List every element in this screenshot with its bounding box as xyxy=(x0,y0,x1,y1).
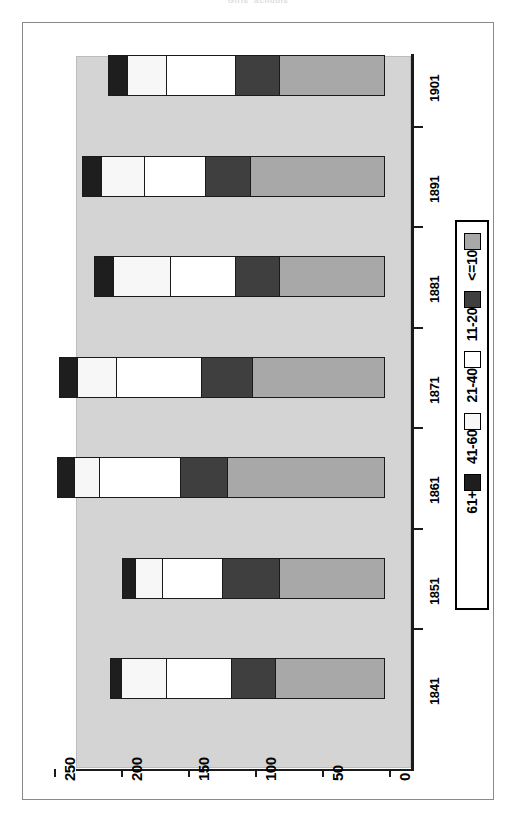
bar-1901 xyxy=(108,55,389,96)
legend: <=1011-2021-4041-6061+ xyxy=(455,220,495,610)
value-tick-label: 150 xyxy=(195,737,212,781)
category-label-1901: 1901 xyxy=(427,50,442,102)
legend-item-1[interactable]: 11-20 xyxy=(464,287,481,342)
category-label-1861: 1861 xyxy=(427,452,442,504)
legend-label: 11-20 xyxy=(464,308,480,342)
value-tick xyxy=(188,769,190,777)
value-tick-label: 200 xyxy=(128,737,145,781)
category-label-1851: 1851 xyxy=(427,553,442,605)
chart-frame: 250200150100500 184118511861187118811891… xyxy=(22,22,494,800)
bar-segment-11-20-1861 xyxy=(180,457,228,498)
bar-segment-11-20-1871 xyxy=(201,357,253,398)
legend-swatch-icon xyxy=(464,351,481,368)
bar-segment-11-20-1851 xyxy=(222,558,280,599)
legend-box: <=1011-2021-4041-6061+ xyxy=(455,220,489,610)
bar-1861 xyxy=(57,457,389,498)
bar-segment-41-60-1901 xyxy=(127,55,167,96)
legend-item-3[interactable]: 41-60 xyxy=(464,409,481,464)
bar-segment-61-1881 xyxy=(94,256,114,297)
bar-segment-10-1881 xyxy=(279,256,385,297)
page-title: Girls' Schools xyxy=(0,0,516,6)
value-tick-label: 50 xyxy=(329,737,346,781)
category-tick xyxy=(414,427,423,429)
bar-1881 xyxy=(94,256,389,297)
bar-1891 xyxy=(82,156,389,197)
bar-segment-41-60-1871 xyxy=(77,357,117,398)
legend-label: 21-40 xyxy=(464,368,480,402)
bar-segment-41-60-1891 xyxy=(101,156,145,197)
category-label-1881: 1881 xyxy=(427,251,442,303)
bar-segment-61-1901 xyxy=(108,55,128,96)
value-tick xyxy=(54,769,56,777)
value-tick-label: 100 xyxy=(262,737,279,781)
bar-segment-11-20-1841 xyxy=(231,658,277,699)
bar-segment-61-1851 xyxy=(122,558,135,599)
value-axis-line xyxy=(76,769,414,771)
legend-item-2[interactable]: 21-40 xyxy=(464,347,481,402)
legend-label: <=10 xyxy=(464,250,480,281)
value-tick xyxy=(322,769,324,777)
bar-segment-61-1891 xyxy=(82,156,102,197)
bar-1871 xyxy=(59,357,389,398)
bar-segment-41-60-1881 xyxy=(113,256,171,297)
bar-segment-10-1871 xyxy=(252,357,385,398)
legend-swatch-icon xyxy=(464,474,481,491)
value-tick xyxy=(121,769,123,777)
bar-segment-10-1901 xyxy=(279,55,385,96)
category-tick xyxy=(414,528,423,530)
bar-segment-61-1871 xyxy=(59,357,78,398)
bar-segment-61-1861 xyxy=(57,457,76,498)
legend-swatch-icon xyxy=(464,233,481,250)
value-tick xyxy=(255,769,257,777)
bar-segment-21-40-1871 xyxy=(116,357,202,398)
legend-item-0[interactable]: <=10 xyxy=(464,229,481,281)
bar-segment-41-60-1851 xyxy=(135,558,163,599)
bar-segment-21-40-1861 xyxy=(99,457,181,498)
bar-segment-21-40-1881 xyxy=(170,256,236,297)
category-tick xyxy=(414,327,423,329)
bar-segment-10-1851 xyxy=(279,558,385,599)
category-label-1871: 1871 xyxy=(427,352,442,404)
bar-1851 xyxy=(122,558,389,599)
bar-segment-10-1891 xyxy=(250,156,385,197)
bar-segment-21-40-1841 xyxy=(166,658,232,699)
legend-label: 61+ xyxy=(464,491,480,514)
bar-segment-21-40-1901 xyxy=(166,55,236,96)
value-tick-label: 0 xyxy=(396,737,413,781)
category-tick xyxy=(414,226,423,228)
legend-swatch-icon xyxy=(464,291,481,308)
bar-segment-21-40-1851 xyxy=(162,558,224,599)
bar-segment-10-1861 xyxy=(227,457,385,498)
legend-label: 41-60 xyxy=(464,430,480,464)
bar-segment-11-20-1901 xyxy=(235,55,281,96)
value-tick-label: 250 xyxy=(61,737,78,781)
value-tick xyxy=(389,769,391,777)
category-tick xyxy=(414,126,423,128)
category-tick xyxy=(414,628,423,630)
bar-segment-11-20-1891 xyxy=(205,156,251,197)
bar-segment-11-20-1881 xyxy=(235,256,281,297)
bar-1841 xyxy=(110,658,389,699)
legend-swatch-icon xyxy=(464,413,481,430)
bar-segment-10-1841 xyxy=(275,658,385,699)
category-label-1891: 1891 xyxy=(427,151,442,203)
category-label-1841: 1841 xyxy=(427,653,442,705)
legend-item-4[interactable]: 61+ xyxy=(464,470,481,514)
bar-segment-41-60-1841 xyxy=(121,658,167,699)
category-axis-line xyxy=(411,54,414,770)
bar-segment-41-60-1861 xyxy=(74,457,99,498)
bar-segment-21-40-1891 xyxy=(144,156,206,197)
